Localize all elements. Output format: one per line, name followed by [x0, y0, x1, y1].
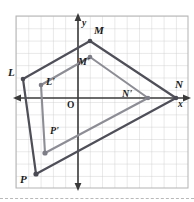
x-axis-label: x: [178, 100, 183, 110]
label-P: P: [20, 174, 27, 185]
origin-label: O: [67, 101, 74, 111]
vertex-M: [88, 39, 93, 44]
vertex-N-prime: [146, 96, 151, 101]
y-axis-label: y: [82, 19, 86, 29]
vertex-P: [33, 171, 38, 176]
vertex-L-prime: [39, 83, 44, 88]
label-P-prime: P': [50, 126, 59, 136]
label-N-prime: N': [122, 89, 132, 99]
label-M: M: [94, 25, 104, 36]
coordinate-plane-figure: M M' L L' N N' P' P y x O: [0, 0, 194, 202]
vertex-L: [21, 77, 26, 82]
vertex-P-prime: [42, 150, 47, 155]
label-M-prime: M': [78, 57, 90, 67]
label-N: N: [175, 79, 183, 90]
label-L: L: [8, 67, 15, 78]
bottom-divider: [0, 198, 194, 200]
label-L-prime: L': [46, 77, 55, 87]
